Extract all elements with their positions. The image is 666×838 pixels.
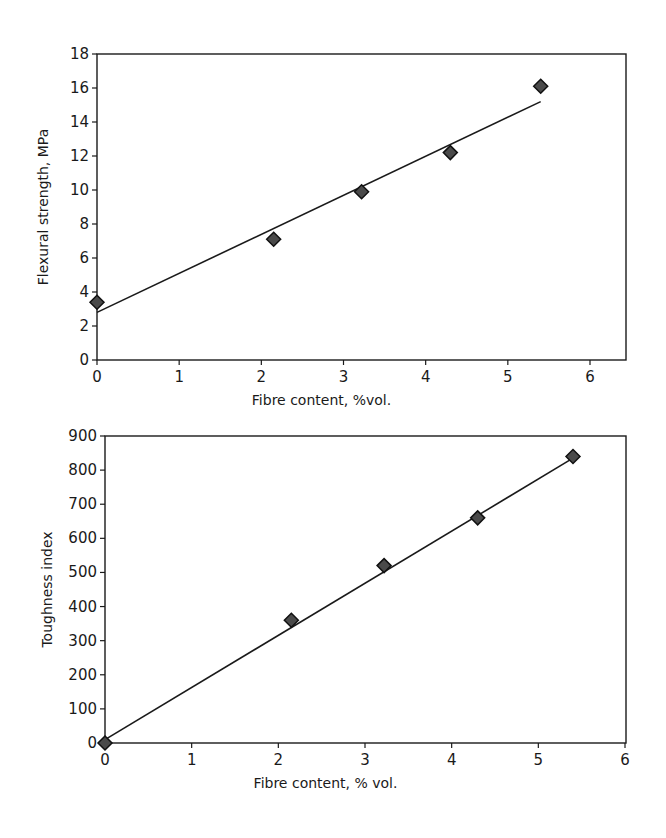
- diamond-marker: [98, 736, 112, 750]
- y-tick-label: 0: [87, 734, 97, 752]
- y-axis: 0100200300400500600700800900: [68, 427, 105, 752]
- x-tick-label: 4: [421, 368, 431, 386]
- x-tick-label: 2: [257, 368, 267, 386]
- y-tick-label: 800: [68, 461, 97, 479]
- x-tick-label: 1: [174, 368, 184, 386]
- x-axis: 0123456: [92, 360, 595, 386]
- x-axis-title: Fibre content, % vol.: [254, 775, 398, 791]
- plot-frame: [105, 436, 626, 743]
- y-tick-label: 900: [68, 427, 97, 445]
- diamond-marker: [90, 295, 104, 309]
- y-tick-label: 400: [68, 598, 97, 616]
- y-tick-label: 300: [68, 632, 97, 650]
- diamond-marker: [267, 232, 281, 246]
- x-tick-label: 6: [620, 751, 630, 769]
- y-tick-label: 14: [70, 113, 89, 131]
- y-tick-label: 18: [70, 45, 89, 63]
- flexural-strength-chart: 0246810121416180123456Fibre content, %vo…: [35, 45, 626, 408]
- y-tick-label: 10: [70, 181, 89, 199]
- x-tick-label: 3: [339, 368, 349, 386]
- diamond-marker: [534, 79, 548, 93]
- y-tick-label: 4: [79, 283, 89, 301]
- x-tick-label: 3: [360, 751, 370, 769]
- y-tick-label: 100: [68, 700, 97, 718]
- x-tick-label: 0: [92, 368, 102, 386]
- y-tick-label: 500: [68, 563, 97, 581]
- x-tick-label: 1: [187, 751, 197, 769]
- diamond-marker: [377, 559, 391, 573]
- plot-frame: [97, 54, 626, 360]
- figure: 0246810121416180123456Fibre content, %vo…: [0, 0, 666, 838]
- trend-line: [105, 458, 573, 739]
- y-tick-label: 700: [68, 495, 97, 513]
- x-tick-label: 0: [100, 751, 110, 769]
- x-axis-title: Fibre content, %vol.: [252, 392, 391, 408]
- y-tick-label: 16: [70, 79, 89, 97]
- y-tick-label: 2: [79, 317, 89, 335]
- toughness-index-chart: 01002003004005006007008009000123456Fibre…: [39, 427, 630, 791]
- x-tick-label: 6: [585, 368, 595, 386]
- y-axis-title: Toughness index: [39, 531, 55, 648]
- x-axis: 0123456: [100, 743, 630, 769]
- x-tick-label: 2: [274, 751, 284, 769]
- y-tick-label: 8: [79, 215, 89, 233]
- trend-line: [97, 102, 541, 313]
- y-tick-label: 12: [70, 147, 89, 165]
- y-axis: 024681012141618: [70, 45, 97, 369]
- data-points: [90, 79, 548, 309]
- x-tick-label: 4: [447, 751, 457, 769]
- y-tick-label: 6: [79, 249, 89, 267]
- y-axis-title: Flexural strength, MPa: [35, 129, 51, 285]
- diamond-marker: [355, 185, 369, 199]
- y-tick-label: 200: [68, 666, 97, 684]
- y-tick-label: 600: [68, 529, 97, 547]
- y-tick-label: 0: [79, 351, 89, 369]
- x-tick-label: 5: [503, 368, 513, 386]
- x-tick-label: 5: [534, 751, 544, 769]
